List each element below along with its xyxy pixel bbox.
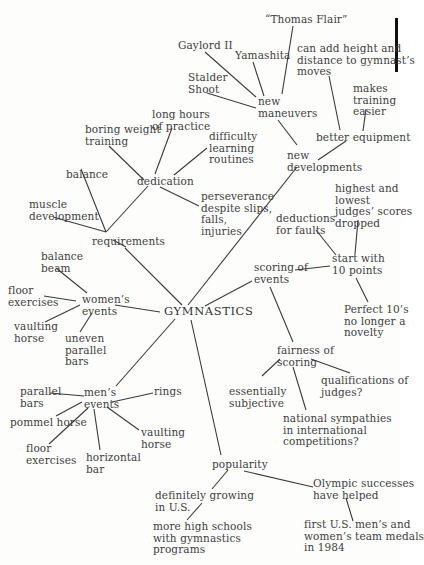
node-perseverance: perseverance despite slips, falls, injur… — [201, 191, 274, 237]
node-perfect-10: Perfect 10’s no longer a novelty — [344, 304, 409, 339]
node-long-hours: long hours of practice — [152, 109, 210, 132]
node-difficulty-learning: difficulty learning routines — [209, 131, 257, 166]
node-boring-weight-training: boring weight training — [85, 124, 161, 147]
node-new-maneuvers: new maneuvers — [258, 96, 317, 119]
node-scoring-of-events: scoring of events — [254, 262, 308, 285]
node-dedication: dedication — [137, 176, 194, 188]
node-horizontal-bar: horizontal bar — [86, 452, 141, 475]
node-high-schools: more high schools with gymnastics progra… — [153, 521, 252, 556]
node-height-distance: can add height and distance to gymnast’s… — [297, 43, 415, 78]
node-growing-us: definitely growing in U.S. — [155, 490, 254, 513]
node-yamashita: Yamashita — [235, 50, 290, 62]
node-fairness: fairness of scoring — [277, 345, 334, 368]
node-medals-1984: first U.S. men’s and women’s team medals… — [304, 519, 424, 554]
node-requirements: requirements — [92, 236, 165, 248]
node-deductions: deductions for faults — [276, 213, 335, 236]
node-national-sympathies: national sympathies in international com… — [283, 413, 392, 448]
node-mens-vaulting-horse: vaulting horse — [141, 427, 185, 450]
node-new-developments: new developments — [287, 150, 362, 173]
node-thomas-flair: “Thomas Flair” — [265, 14, 347, 26]
node-popularity: popularity — [212, 459, 268, 471]
node-womens-vaulting-horse: vaulting horse — [14, 321, 58, 344]
node-mens-floor-exercises: floor exercises — [26, 443, 77, 466]
node-womens-events: women’s events — [82, 294, 130, 317]
node-highest-lowest: highest and lowest judges’ scores droppe… — [335, 183, 412, 229]
node-gymnastics: GYMNASTICS — [164, 306, 254, 318]
node-makes-training-easier: makes training easier — [353, 83, 396, 118]
node-uneven-parallel-bars: uneven parallel bars — [65, 333, 106, 368]
node-qualifications: qualifications of judges? — [321, 375, 408, 398]
node-womens-floor-exercises: floor exercises — [8, 285, 59, 308]
node-mens-events: men’s events — [84, 387, 119, 410]
node-parallel-bars: parallel bars — [20, 386, 61, 409]
node-start-with-10: start with 10 points — [332, 253, 385, 276]
node-rings: rings — [154, 386, 182, 398]
node-olympic-successes: Olympic successes have helped — [313, 478, 414, 501]
node-balance-beam: balance beam — [41, 251, 83, 274]
node-essentially-subjective: essentially subjective — [229, 386, 287, 409]
node-muscle-development: muscle development — [29, 199, 99, 222]
node-gaylord: Gaylord II — [178, 40, 233, 52]
node-balance: balance — [66, 169, 108, 181]
node-better-equipment: better equipment — [316, 132, 410, 144]
node-pommel-horse: pommel horse — [10, 417, 87, 429]
node-stalder-shoot: Stalder Shoot — [188, 72, 228, 95]
